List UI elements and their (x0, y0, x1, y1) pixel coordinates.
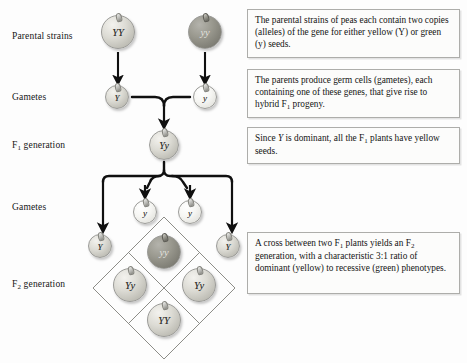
callout-parental-strains: The parental strains of peas each contai… (247, 9, 460, 58)
pea-gamete-f1-inner-left: y (133, 200, 157, 224)
f1-label-rest: generation (21, 140, 65, 150)
pea-gamete-f1-outer-right: Y (216, 234, 240, 258)
callout-dominance-line-1: Since Y is dominant, all the F1 plants h… (255, 133, 412, 143)
pea-parent-left-genotype: YY (112, 28, 123, 39)
callout-dominance-f1-sub: 1 (364, 137, 368, 145)
pea-gamete-f1-outer-left-genotype: Y (98, 243, 103, 252)
pea-gamete-f1-inner-right: y (178, 200, 202, 224)
pea-f1-hybrid: Yy (149, 130, 179, 160)
pea-gamete-f1-outer-right-genotype: Y (226, 243, 231, 252)
row-label-f2-generation: F2 generation (12, 279, 65, 289)
punnett-cell-bottom-genotype: YY (158, 316, 169, 327)
callout-gametes: The parents produce germ cells (gametes)… (247, 69, 460, 118)
punnett-cell-top-pea: yy (147, 235, 181, 269)
callout-gametes-f1-sub: 1 (287, 103, 291, 111)
callout-parental-line-1: The parental strains of peas each contai… (255, 15, 406, 25)
f2-label-sub: 2 (17, 283, 21, 291)
punnett-cell-left-genotype: Yy (125, 281, 135, 292)
genetics-inheritance-figure: Parental strains Gametes F1 generation G… (0, 0, 467, 363)
f2-label-rest: generation (21, 279, 65, 289)
punnett-cell-left-pea: Yy (113, 268, 147, 302)
pea-gamete-f1-outer-left: Y (88, 234, 112, 258)
pea-f1-hybrid-genotype: Yy (159, 141, 169, 151)
pea-gamete-f1-inner-right-genotype: y (188, 209, 192, 218)
row-label-f1-generation: F1 generation (12, 140, 65, 150)
callout-gametes-line-1: The parents produce germ cells (gametes)… (255, 75, 413, 85)
pea-gamete-parent-right-genotype: y (203, 94, 207, 103)
pea-gamete-parent-left: Y (105, 85, 129, 109)
pea-gamete-parent-right: y (193, 85, 217, 109)
branch-to-outer-left (103, 162, 164, 182)
branch-to-inner-right (172, 176, 187, 188)
punnett-cell-right-pea: Yy (182, 268, 216, 302)
junction-right-branch (164, 97, 190, 106)
punnett-cell-top-genotype: yy (160, 248, 169, 259)
pea-gamete-parent-left-genotype: Y (115, 94, 120, 103)
pea-parent-right: yy (188, 15, 222, 49)
callout-f2-line-1: A cross between two F1 plants yields an (255, 238, 403, 248)
row-label-gametes-2: Gametes (12, 202, 46, 212)
callout-f2-line-4: (green) phenotypes. (372, 263, 446, 273)
callout-f2-f2-sub: 2 (411, 242, 415, 250)
branch-to-inner-left (147, 176, 160, 188)
punnett-cell-bottom-pea: YY (147, 303, 181, 337)
pea-parent-right-genotype: yy (201, 28, 210, 39)
row-label-gametes-1: Gametes (12, 92, 46, 102)
callout-dominance: Since Y is dominant, all the F1 plants h… (247, 127, 460, 164)
callout-f2-cross: A cross between two F1 plants yields an … (247, 232, 460, 294)
junction-left-branch (132, 97, 164, 106)
pea-parent-left: YY (101, 15, 135, 49)
punnett-cell-right-genotype: Yy (194, 281, 204, 292)
pea-gamete-f1-inner-left-genotype: y (143, 209, 147, 218)
callout-f2-f1-sub: 1 (340, 242, 344, 250)
f1-label-sub: 1 (17, 144, 21, 152)
row-label-parental-strains: Parental strains (12, 31, 73, 41)
